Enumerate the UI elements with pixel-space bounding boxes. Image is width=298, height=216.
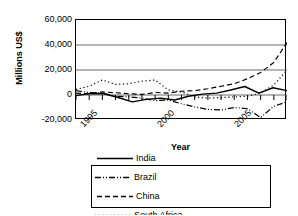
chart-legend: India Brazil China South Africa bbox=[91, 165, 271, 208]
legend-swatch-dashed bbox=[96, 192, 134, 201]
legend-label: India bbox=[134, 153, 156, 163]
x-tick-label: 2000 bbox=[155, 108, 176, 129]
legend-label: Brazil bbox=[132, 172, 157, 182]
legend-label: South Africa bbox=[132, 210, 183, 215]
x-tick-label: 1995 bbox=[78, 108, 99, 129]
legend-item-china: China bbox=[92, 187, 184, 206]
legend-swatch-dash-dot bbox=[94, 173, 132, 182]
x-tick-label: 2005 bbox=[232, 108, 253, 129]
legend-item-south-africa: South Africa bbox=[92, 206, 180, 216]
legend-label: China bbox=[134, 191, 160, 201]
legend-swatch-solid bbox=[96, 154, 134, 163]
legend-swatch-dotted bbox=[94, 211, 132, 216]
legend-item-brazil: Brazil bbox=[92, 168, 180, 187]
chart-figure: Millions US$ 60,000 40,000 20,000 0 -20,… bbox=[0, 0, 298, 215]
legend-item-india: India bbox=[92, 149, 184, 168]
